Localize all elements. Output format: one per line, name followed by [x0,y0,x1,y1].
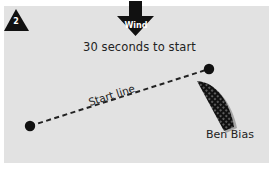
boat-name-label: Ben Bias [206,128,254,141]
wind-arrow-icon [117,1,154,36]
wind-label: Wind [122,21,150,30]
boat-icon [197,81,237,133]
start-line-label: Start line [87,82,136,108]
pin-end-mark [25,121,35,131]
countdown-text: 30 seconds to start [83,40,196,54]
step-number: 2 [11,17,21,26]
committee-boat-mark [204,64,214,74]
